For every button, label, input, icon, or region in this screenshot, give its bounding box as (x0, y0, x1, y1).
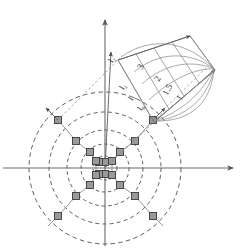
curve-1-5 (142, 64, 214, 84)
curve-fan (121, 44, 214, 121)
projection-labels: l₂ l₁ l₀ l₂ (106, 54, 146, 112)
guide-right-to-apex (153, 68, 206, 120)
label-axis-l2: l₂ (106, 54, 117, 64)
diagram-svg: 3 2 1.5 1 l₂ l₁ l₀ l₂ (0, 0, 247, 250)
z-axis-oblique (105, 52, 111, 168)
lattice-node (73, 193, 80, 200)
lattice-node (117, 149, 124, 156)
curve-1 (149, 69, 214, 100)
curve-spine-d (154, 69, 214, 121)
curve-labels: 3 2 1.5 1 (135, 62, 185, 102)
lattice-node (109, 172, 116, 179)
guide-left-to-panel (58, 58, 120, 120)
lattice-node (87, 149, 94, 156)
inset-panel (118, 36, 215, 122)
panel-rule-1 (136, 54, 169, 109)
label-l1: l₁ (126, 92, 137, 102)
label-l0: l₀ (135, 102, 146, 112)
label-l2: l₂ (117, 81, 128, 91)
lattice-node (117, 182, 124, 189)
curve-spine-c (154, 69, 214, 121)
curve-spine-b (154, 69, 214, 121)
lattice-node (132, 193, 139, 200)
panel-outline (118, 36, 215, 122)
curve-label-2: 2 (152, 74, 163, 83)
lattice-node (93, 158, 100, 165)
curve-spine-a (154, 69, 214, 121)
figure-canvas: 3 2 1.5 1 l₂ l₁ l₀ l₂ (0, 0, 247, 250)
curve-label-1-5: 1.5 (160, 82, 174, 97)
lattice-node (93, 172, 100, 179)
projection-guides (58, 58, 206, 168)
lattice-node (87, 182, 94, 189)
lattice-node (73, 138, 80, 145)
lattice-node (150, 213, 157, 220)
lattice-node (55, 213, 62, 220)
panel-base-axis (118, 36, 190, 60)
